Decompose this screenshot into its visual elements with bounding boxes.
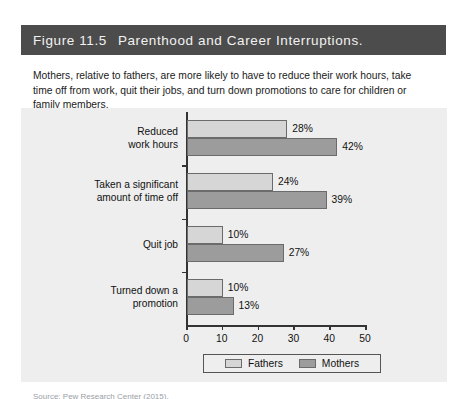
figure-subtitle: Mothers, relative to fathers, are more l… <box>33 69 431 113</box>
bar-value-fathers-2: 10% <box>228 229 249 240</box>
y-axis-tick-3 <box>182 272 186 274</box>
x-axis-line <box>186 325 365 327</box>
category-label-0: Reduced work hours <box>28 125 178 151</box>
chart-legend: Fathers Mothers <box>203 354 381 373</box>
bar-value-fathers-1: 24% <box>278 176 299 187</box>
legend-swatch-fathers-icon <box>225 359 242 368</box>
bar-fathers-2 <box>187 226 223 244</box>
bar-value-mothers-0: 42% <box>342 141 363 152</box>
x-axis-tick-0 <box>186 325 188 330</box>
legend-item-mothers[interactable]: Mothers <box>299 358 359 369</box>
category-label-1: Taken a significant amount of time off <box>28 178 178 204</box>
figure-title-text: Parenthood and Career Interruptions. <box>118 33 363 48</box>
legend-item-fathers[interactable]: Fathers <box>225 358 283 369</box>
x-axis-tick-10 <box>222 325 224 330</box>
bar-value-mothers-1: 39% <box>332 194 353 205</box>
category-label-3: Turned down a promotion <box>28 284 178 310</box>
bar-mothers-3 <box>187 297 234 315</box>
figure-title: Figure 11.5Parenthood and Career Interru… <box>21 33 363 48</box>
x-axis-tick-label-30: 30 <box>288 333 299 344</box>
legend-label-mothers: Mothers <box>322 358 359 369</box>
plot-area: 01020304050 28%42%24%39%10%27%10%13% <box>186 112 386 325</box>
x-axis-tick-label-50: 50 <box>359 333 370 344</box>
legend-swatch-mothers-icon <box>299 359 316 368</box>
category-label-column: Reduced work hours Taken a significant a… <box>21 108 186 382</box>
chart-panel: Reduced work hours Taken a significant a… <box>21 108 447 382</box>
bar-value-fathers-3: 10% <box>228 282 249 293</box>
x-axis-tick-50 <box>365 325 367 330</box>
bar-value-mothers-2: 27% <box>289 247 310 258</box>
figure-title-bar: Figure 11.5Parenthood and Career Interru… <box>21 25 446 55</box>
bar-fathers-1 <box>187 173 273 191</box>
x-axis-tick-label-40: 40 <box>323 333 334 344</box>
x-axis-tick-label-20: 20 <box>252 333 263 344</box>
x-axis-tick-20 <box>258 325 260 330</box>
y-axis-tick-1 <box>182 165 186 167</box>
x-axis-tick-30 <box>293 325 295 330</box>
x-axis-tick-40 <box>329 325 331 330</box>
figure-number: Figure 11.5 <box>33 33 107 48</box>
bar-value-mothers-3: 13% <box>239 300 260 311</box>
x-axis-tick-label-0: 0 <box>183 333 189 344</box>
y-axis-tick-2 <box>182 219 186 221</box>
bar-mothers-1 <box>187 191 327 209</box>
bar-fathers-0 <box>187 120 287 138</box>
bar-fathers-3 <box>187 279 223 297</box>
legend-label-fathers: Fathers <box>248 358 283 369</box>
source-caption: Source: Pew Research Center (2015). <box>33 392 169 399</box>
category-label-2: Quit job <box>28 238 178 251</box>
bar-mothers-0 <box>187 138 337 156</box>
bar-value-fathers-0: 28% <box>292 123 313 134</box>
bar-mothers-2 <box>187 244 284 262</box>
x-axis-tick-label-10: 10 <box>216 333 227 344</box>
